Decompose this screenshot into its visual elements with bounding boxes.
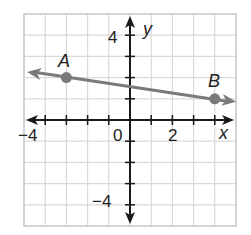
x-tick-label-neg4: −4: [18, 127, 37, 144]
point-a-label: A: [58, 52, 70, 70]
point-b-label: B: [208, 72, 220, 90]
x-tick-label-0: 0: [113, 127, 122, 144]
axes: [26, 16, 234, 224]
x-tick-label-2: 2: [168, 127, 177, 144]
y-tick-label-4: 4: [108, 29, 117, 46]
point-a-marker: [61, 72, 72, 83]
line-ab: [27, 68, 236, 106]
y-tick-label-neg4: −4: [92, 193, 111, 210]
point-b-marker: [209, 93, 220, 104]
coordinate-plane: y x −4 0 2 4 −4 A B: [0, 0, 251, 235]
y-axis-label: y: [143, 20, 152, 38]
x-axis-label: x: [219, 124, 228, 142]
graph-canvas: [0, 0, 251, 235]
